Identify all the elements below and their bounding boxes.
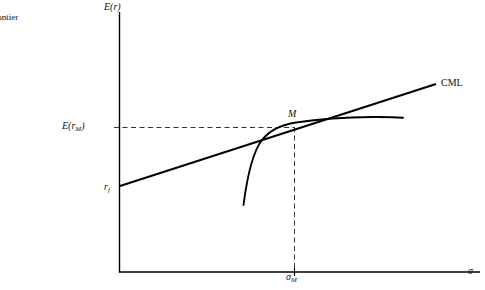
- figure-container: 8.1 nt frontier pital . E(r) E(rM) rf M …: [0, 0, 485, 290]
- capital-market-line: [120, 84, 436, 186]
- chart-canvas: [0, 0, 485, 290]
- efficient-frontier-curve: [244, 117, 404, 205]
- tangency-point-label-text: M: [288, 108, 296, 119]
- x-axis-label: σ: [468, 265, 473, 276]
- y-axis-label: E(r): [104, 1, 121, 12]
- risk-free-rate-label-subscript: f: [108, 186, 110, 194]
- tangency-point-label: M: [288, 108, 296, 119]
- y-axis-tick-label-erm: E(rM): [62, 120, 85, 133]
- cml-label-text: CML: [441, 77, 463, 88]
- y-axis-label-text: E(r): [104, 1, 121, 12]
- x-axis-tick-label-sigma-m: σM: [286, 271, 297, 284]
- cml-label: CML: [441, 77, 463, 88]
- x-axis-tick-label-sigma-m-subscript: M: [291, 276, 297, 284]
- y-axis-tick-label-erm-close: ): [81, 120, 84, 131]
- y-axis-tick-label-erm-main: E(r: [62, 120, 75, 131]
- risk-free-rate-label: rf: [104, 181, 110, 194]
- x-axis-label-text: σ: [468, 265, 473, 276]
